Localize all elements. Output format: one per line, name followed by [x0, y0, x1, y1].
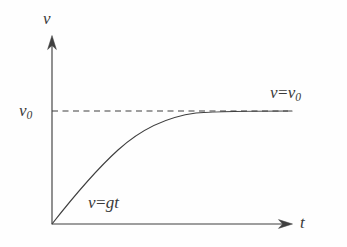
tick-base-text: v	[19, 101, 27, 120]
asymptote-annotation: v=v0	[270, 84, 301, 104]
x-axis-label-text: t	[300, 213, 305, 232]
asymptote-rhs-subscript: 0	[295, 91, 301, 104]
tangent-equals-sign: =	[96, 193, 105, 212]
y-axis-tick-label-v0: v0	[19, 102, 32, 122]
tick-subscript-text: 0	[27, 109, 33, 122]
figure-canvas	[0, 0, 347, 247]
x-axis-label: t	[300, 214, 305, 231]
physics-velocity-time-figure: v t v0 v=v0 v=gt	[0, 0, 347, 247]
tangent-rhs-text: gt	[106, 193, 119, 212]
asymptote-equals-sign: =	[278, 83, 287, 102]
y-axis-label: v	[43, 10, 51, 27]
y-axis-label-text: v	[43, 9, 51, 28]
tangent-lhs-text: v	[88, 193, 96, 212]
tangent-annotation: v=gt	[88, 194, 119, 211]
asymptote-lhs-text: v	[270, 83, 278, 102]
